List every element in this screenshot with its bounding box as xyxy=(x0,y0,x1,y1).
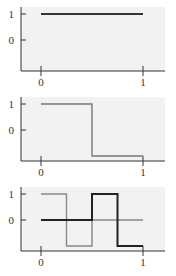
chart-panel-3: 1001 xyxy=(0,180,176,270)
y-tick-label: 1 xyxy=(9,188,15,200)
plot-area xyxy=(21,7,165,71)
x-tick-label: 1 xyxy=(140,166,146,178)
plot-area xyxy=(21,97,165,161)
x-tick-label: 0 xyxy=(38,76,44,88)
y-tick-label: 1 xyxy=(9,98,15,110)
x-tick-label: 0 xyxy=(38,166,44,178)
y-tick-label: 0 xyxy=(9,214,15,226)
chart-panel-2: 1001 xyxy=(0,90,176,180)
y-tick-label: 1 xyxy=(9,8,15,20)
y-tick-label: 0 xyxy=(9,34,15,46)
x-tick-label: 0 xyxy=(38,256,44,268)
y-tick-label: 0 xyxy=(9,124,15,136)
x-tick-label: 1 xyxy=(140,76,146,88)
chart-panel-1: 1001 xyxy=(0,0,176,90)
x-tick-label: 1 xyxy=(140,256,146,268)
